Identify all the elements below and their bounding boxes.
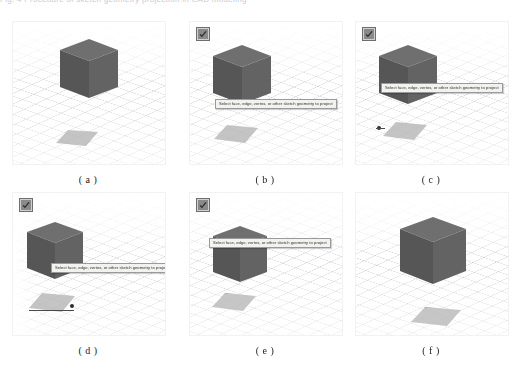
viewport-c[interactable]: Select face, edge, vertex, or other sket… — [355, 21, 509, 165]
sketch-edge-highlight — [29, 310, 74, 311]
viewport-e[interactable]: Select face, edge, vertex, or other sket… — [189, 192, 343, 336]
panel-d: Select face, edge, vertex, or other sket… — [12, 192, 164, 356]
confirm-button[interactable] — [19, 198, 33, 212]
selection-prompt-tooltip: Select face, edge, vertex, or other sket… — [51, 263, 166, 273]
panel-caption: ( d ) — [12, 345, 164, 356]
cube-model[interactable] — [379, 45, 437, 115]
panel-e: Select face, edge, vertex, or other sket… — [189, 192, 341, 356]
cube-model[interactable] — [400, 217, 466, 297]
panel-caption: ( f ) — [355, 345, 507, 356]
panel-f: ( f ) — [355, 192, 507, 356]
selection-prompt-tooltip: Select face, edge, vertex, or other sket… — [215, 99, 337, 109]
check-icon — [199, 201, 207, 209]
confirm-button[interactable] — [196, 198, 210, 212]
cube-model[interactable] — [27, 222, 83, 290]
check-icon — [199, 30, 207, 38]
panel-caption: ( e ) — [189, 345, 341, 356]
viewport-b[interactable]: Select face, edge, vertex, or other sket… — [189, 21, 343, 165]
cube-model[interactable] — [60, 39, 118, 109]
panel-c: Select face, edge, vertex, or other sket… — [355, 21, 507, 185]
confirm-button[interactable] — [362, 27, 376, 41]
panel-caption: ( a ) — [12, 174, 164, 185]
clipped-caption-strip: Fig. 4 Procedure of sketch geometry proj… — [0, 0, 516, 9]
confirm-button[interactable] — [196, 27, 210, 41]
panel-b: Select face, edge, vertex, or other sket… — [189, 21, 341, 185]
panel-a: ( a ) — [12, 21, 164, 185]
selection-prompt-tooltip: Select face, edge, vertex, or other sket… — [209, 238, 331, 248]
panel-caption: ( c ) — [355, 174, 507, 185]
selection-prompt-tooltip: Select face, edge, vertex, or other sket… — [381, 83, 503, 93]
clipped-caption-text: Fig. 4 Procedure of sketch geometry proj… — [0, 0, 516, 4]
viewport-a[interactable] — [12, 21, 166, 165]
viewport-f[interactable] — [355, 192, 509, 336]
check-icon — [365, 30, 373, 38]
selected-vertex-point[interactable] — [70, 304, 74, 308]
panel-caption: ( b ) — [189, 174, 341, 185]
cube-model[interactable] — [213, 226, 267, 292]
check-icon — [22, 201, 30, 209]
sketch-edge-highlight — [376, 128, 385, 129]
viewport-d[interactable]: Select face, edge, vertex, or other sket… — [12, 192, 166, 336]
figure-container: Fig. 4 Procedure of sketch geometry proj… — [0, 0, 516, 376]
